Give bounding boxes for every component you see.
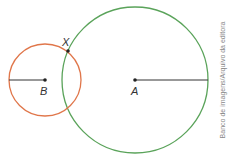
intersection-x-point (66, 49, 70, 53)
label-x: X (61, 36, 70, 48)
image-credit: Banco de imagens/Arquivo da editora (219, 22, 226, 139)
center-a-point (133, 78, 137, 82)
label-b: B (40, 85, 47, 97)
label-a: A (130, 85, 138, 97)
circles-diagram: A B X (0, 0, 234, 160)
center-b-point (43, 78, 47, 82)
